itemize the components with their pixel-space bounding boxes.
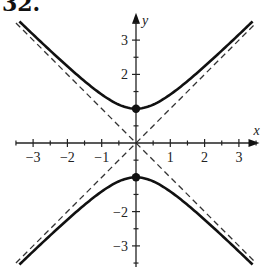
vertex-point xyxy=(132,173,140,181)
x-tick-label: −1 xyxy=(94,150,109,165)
x-tick-label: 1 xyxy=(167,150,174,165)
y-tick-label: −3 xyxy=(113,239,128,254)
x-tick-label: 2 xyxy=(201,150,208,165)
y-axis-label: y xyxy=(140,13,149,28)
hyperbola-chart: −3−2−112332−2−3xy xyxy=(0,0,268,267)
y-axis-arrow-icon xyxy=(132,13,140,24)
x-tick-label: 3 xyxy=(235,150,242,165)
x-axis-label: x xyxy=(252,123,260,138)
y-tick-label: 2 xyxy=(121,67,128,82)
y-tick-label: 3 xyxy=(121,33,128,48)
x-tick-label: −3 xyxy=(26,150,41,165)
y-tick-label: −2 xyxy=(113,205,128,220)
vertex-point xyxy=(132,105,140,113)
x-tick-label: −2 xyxy=(60,150,75,165)
x-axis-arrow-icon xyxy=(248,139,259,147)
